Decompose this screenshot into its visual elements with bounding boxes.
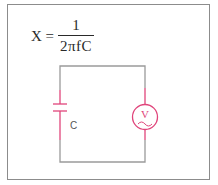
circuit-diagram: V [0, 0, 218, 185]
source-label: V [141, 108, 149, 120]
capacitor-icon [53, 90, 67, 140]
capacitor-label: C [70, 120, 77, 131]
